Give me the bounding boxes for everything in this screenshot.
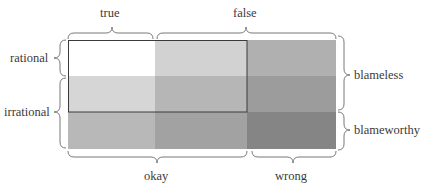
braces-and-outline — [0, 0, 421, 189]
label-false: false — [233, 6, 257, 20]
brace-top-true — [68, 27, 153, 39]
highlight-outline — [69, 41, 248, 113]
label-okay: okay — [144, 169, 168, 183]
brace-bottom-okay — [68, 151, 247, 163]
brace-right-blameless — [338, 36, 350, 110]
brace-left-irrational — [54, 78, 66, 148]
brace-bottom-wrong — [252, 151, 336, 163]
brace-left-rational — [54, 40, 66, 76]
label-wrong: wrong — [275, 169, 307, 183]
brace-right-blameworthy — [338, 112, 350, 150]
label-true: true — [100, 6, 119, 20]
label-rational: rational — [10, 51, 48, 65]
brace-top-false — [157, 27, 336, 39]
label-blameworthy: blameworthy — [354, 123, 420, 137]
label-irrational: irrational — [4, 105, 50, 119]
label-blameless: blameless — [354, 68, 403, 82]
